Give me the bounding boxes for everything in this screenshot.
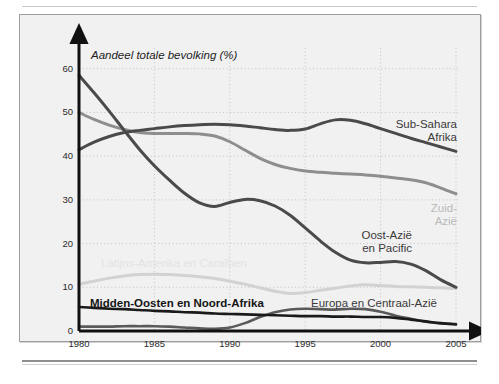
y-axis-tick-label: 60 (47, 63, 73, 74)
series-label-line-2: Afrika (396, 131, 457, 144)
y-axis-tick-label: 40 (47, 150, 73, 161)
x-axis-tick-label: 1985 (132, 338, 176, 349)
series-label-latijns-amerika-en-caraiben: Latijns-Amerika en Caraïben (101, 257, 247, 270)
bottom-divider-rule-shadow (22, 364, 477, 365)
cut-off-caption-text (22, 0, 452, 4)
top-divider-rule (22, 6, 477, 7)
chart-svg (19, 14, 481, 342)
y-axis-title: Aandeel totale bevolking (%) (91, 49, 237, 61)
series-label-europa-en-centraal-azie: Europa en Centraal-Azië (311, 297, 437, 310)
series-label-line-1: Sub-Sahara (396, 118, 457, 131)
series-label-line-1: Zuid- (431, 202, 457, 215)
x-axis-tick-label: 1990 (208, 338, 252, 349)
y-axis-tick-label: 30 (47, 194, 73, 205)
y-axis-tick-label: 50 (47, 106, 73, 117)
series-label-sub-sahara-afrika: Sub-Sahara Afrika (396, 118, 457, 144)
series-label-line-2: en Pacific (316, 242, 412, 255)
x-axis-tick-label: 1995 (283, 338, 327, 349)
x-axis-tick-label: 2000 (359, 338, 403, 349)
series-label-line-1: Oost-Azië (316, 229, 412, 242)
series-label-line-2: Azië (431, 215, 457, 228)
series-line (79, 274, 456, 293)
x-axis-tick-label: 1980 (57, 338, 101, 349)
series-label-midden-oosten-en-noord-afrika: Midden-Oosten en Noord-Afrika (90, 297, 264, 310)
bottom-divider-rule (22, 360, 477, 362)
series-label-oost-azie-en-pacific: Oost-Azië en Pacific (316, 229, 412, 255)
y-axis-tick-label: 20 (47, 238, 73, 249)
series-line (79, 75, 456, 287)
series-label-zuid-azie: Zuid- Azië (431, 202, 457, 228)
y-axis-tick-label: 0 (47, 325, 73, 336)
y-axis-tick-label: 10 (47, 281, 73, 292)
chart-plot-area: Aandeel totale bevolking (%) Sub-Sahara … (19, 14, 481, 342)
x-axis-tick-label: 2005 (434, 338, 478, 349)
